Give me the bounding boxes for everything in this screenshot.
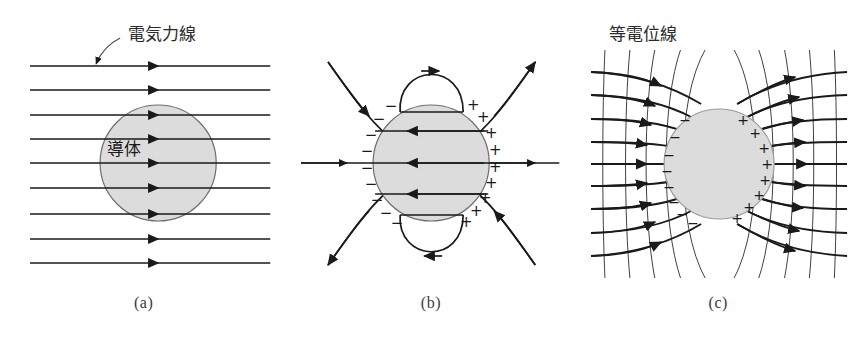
svg-text:+: + — [731, 210, 743, 226]
svg-text:−: − — [687, 215, 699, 231]
panel-a-diagram: 電気力線 導体 — [0, 0, 287, 338]
svg-text:+: + — [489, 141, 502, 159]
equipotential-label: 等電位線 — [609, 24, 677, 44]
svg-text:+: + — [749, 125, 761, 141]
svg-text:+: + — [460, 213, 473, 231]
svg-text:−: − — [391, 214, 404, 232]
svg-text:−: − — [669, 129, 681, 145]
conductor-label-a: 導体 — [107, 139, 141, 159]
svg-text:−: − — [361, 142, 374, 160]
panel-caption-c: (c) — [575, 294, 862, 312]
physics-figure: 電気力線 導体 (a) — [0, 0, 862, 338]
panel-c: − − − − − − − − + + + + + + + + 等電位線 — [575, 0, 862, 338]
panel-b: − − − − − − − − − + + + + + + + + + — [287, 0, 574, 338]
svg-text:+: + — [759, 172, 771, 188]
panel-caption-b: (b) — [287, 294, 574, 312]
svg-text:+: + — [737, 112, 749, 128]
panel-c-diagram: − − − − − − − − + + + + + + + + 等電位線 — [575, 0, 862, 338]
svg-text:−: − — [679, 112, 691, 128]
panel-b-diagram: − − − − − − − − − + + + + + + + + + — [287, 0, 574, 338]
panel-a: 電気力線 導体 (a) — [0, 0, 287, 338]
svg-text:+: + — [743, 199, 755, 215]
svg-text:+: + — [485, 124, 498, 142]
annotation-arrow-a — [96, 38, 120, 64]
svg-text:+: + — [753, 187, 765, 203]
svg-text:−: − — [676, 206, 688, 222]
svg-text:−: − — [385, 97, 398, 115]
svg-text:+: + — [761, 156, 773, 172]
svg-text:+: + — [758, 140, 770, 156]
svg-text:−: − — [661, 163, 673, 179]
field-line-label: 電気力線 — [128, 24, 196, 44]
svg-text:−: − — [663, 179, 675, 195]
svg-text:−: − — [663, 147, 675, 163]
panel-caption-a: (a) — [0, 294, 287, 312]
